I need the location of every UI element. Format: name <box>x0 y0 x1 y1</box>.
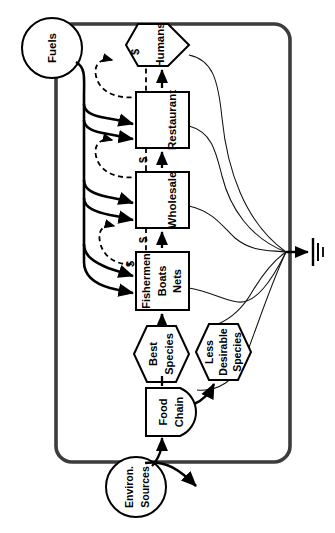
node-fishermen-label-1: Fishermen <box>140 253 152 309</box>
node-restaurant-label: Restaurant <box>166 90 178 150</box>
node-fishermen-label-3: Nets <box>171 269 183 293</box>
dollar-label-restaurant: $ <box>137 157 149 163</box>
diagram-canvas: Fuels Humans $ <box>0 0 335 533</box>
source-fuels: Fuels <box>22 18 82 78</box>
energy-systems-diagram: Fuels Humans $ <box>0 0 335 533</box>
dollar-label-humans: $ <box>129 49 141 55</box>
fuel-pathways <box>76 62 133 293</box>
node-less-desirable-species: Less Desirable Species <box>196 324 251 380</box>
node-wholesale-label: Wholesale <box>166 172 178 229</box>
node-fishermen: Fishermen Boats Nets $ <box>124 232 189 310</box>
node-wholesale: Wholesale $ <box>136 152 189 243</box>
node-humans: Humans $ <box>126 22 189 67</box>
node-less-desirable-label-1: Less <box>203 340 215 364</box>
node-less-desirable-label-3: Species <box>231 332 243 372</box>
node-food-chain: Food Chain <box>146 376 214 445</box>
source-environ-label-1: Environ. <box>123 466 135 508</box>
source-environ: Environ. Sources <box>106 446 196 517</box>
node-best-species: Best Species <box>134 314 189 382</box>
node-fishermen-label-2: Boats <box>156 266 168 297</box>
node-less-desirable-label-2: Desirable <box>217 328 229 375</box>
dollar-label-fishermen: $ <box>124 261 136 267</box>
node-best-species-label-2: Species <box>163 333 175 375</box>
node-restaurant: Restaurant $ <box>136 70 189 163</box>
source-environ-label-2: Sources <box>139 466 151 508</box>
node-humans-label: Humans <box>154 22 166 67</box>
node-food-chain-label-1: Food <box>157 399 169 426</box>
node-best-species-label-1: Best <box>147 342 159 366</box>
dollar-label-wholesale: $ <box>137 237 149 243</box>
source-fuels-label: Fuels <box>46 33 58 63</box>
node-food-chain-label-2: Chain <box>173 396 185 427</box>
